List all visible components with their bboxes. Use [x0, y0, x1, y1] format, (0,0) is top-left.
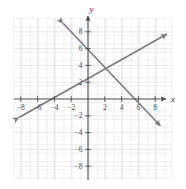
y-tick-label: −2 — [75, 111, 83, 120]
x-tick-label: 6 — [137, 103, 141, 112]
x-tick-label: −4 — [50, 103, 58, 112]
y-tick-label: 2 — [79, 78, 83, 87]
y-tick-label: 6 — [79, 44, 83, 53]
graph-canvas: −8 −6 −4 −2 2 4 6 8 8 6 4 2 −2 −4 −6 −8 … — [0, 0, 186, 189]
x-tick-label: 8 — [153, 103, 157, 112]
x-tick-label: 2 — [103, 103, 107, 112]
x-tick-label: −6 — [34, 103, 42, 112]
y-tick-label: 4 — [79, 61, 83, 70]
x-tick-label: −8 — [17, 103, 25, 112]
y-tick-label: −6 — [75, 145, 83, 154]
x-tick-label: 4 — [120, 103, 124, 112]
y-tick-label: −8 — [75, 162, 83, 171]
coordinate-plane-figure: −8 −6 −4 −2 2 4 6 8 8 6 4 2 −2 −4 −6 −8 … — [0, 0, 186, 189]
x-axis-label: x — [170, 94, 175, 104]
y-tick-label: 8 — [79, 27, 83, 36]
y-axis-label: y — [89, 4, 94, 14]
x-tick-label: −2 — [67, 103, 75, 112]
y-tick-label: −4 — [75, 128, 83, 137]
